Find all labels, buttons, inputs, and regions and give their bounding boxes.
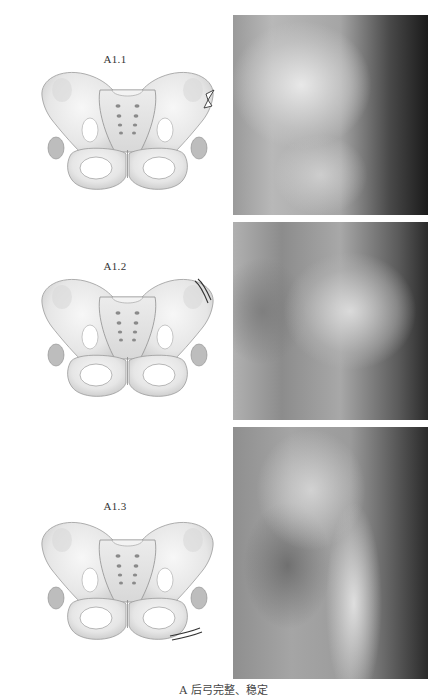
xray-image-a1-3 (233, 427, 428, 679)
xray-image-a1-2 (233, 222, 428, 420)
pelvis-illustration-a1-2 (30, 267, 225, 407)
xray-image-a1-1 (233, 15, 428, 215)
pelvis-illustration-a1-3 (30, 510, 225, 650)
pelvis-illustration-a1-1 (30, 60, 225, 200)
figure-caption: A 后弓完整、稳定 (0, 681, 447, 697)
